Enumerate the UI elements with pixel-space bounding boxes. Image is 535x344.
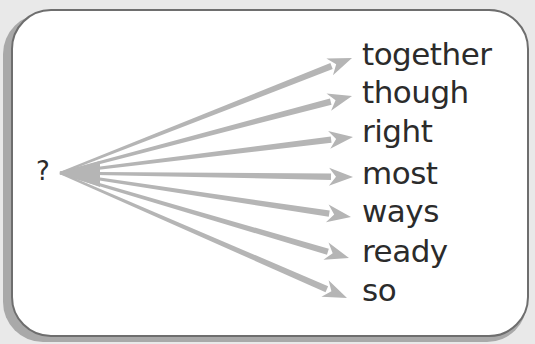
target-word-so: so bbox=[362, 272, 396, 308]
arrow-to-so bbox=[60, 172, 347, 298]
target-word-right: right bbox=[362, 113, 432, 149]
target-word-together: together bbox=[362, 36, 492, 72]
arrow-to-right bbox=[60, 131, 353, 174]
target-word-ways: ways bbox=[362, 193, 439, 229]
arrow-to-ready bbox=[60, 172, 349, 260]
target-word-most: most bbox=[362, 155, 437, 191]
arrow-to-most bbox=[60, 168, 353, 186]
target-word-though: though bbox=[362, 74, 469, 110]
arrow-to-though bbox=[60, 93, 352, 174]
target-word-ready: ready bbox=[362, 233, 448, 269]
source-question-mark: ? bbox=[36, 156, 50, 186]
